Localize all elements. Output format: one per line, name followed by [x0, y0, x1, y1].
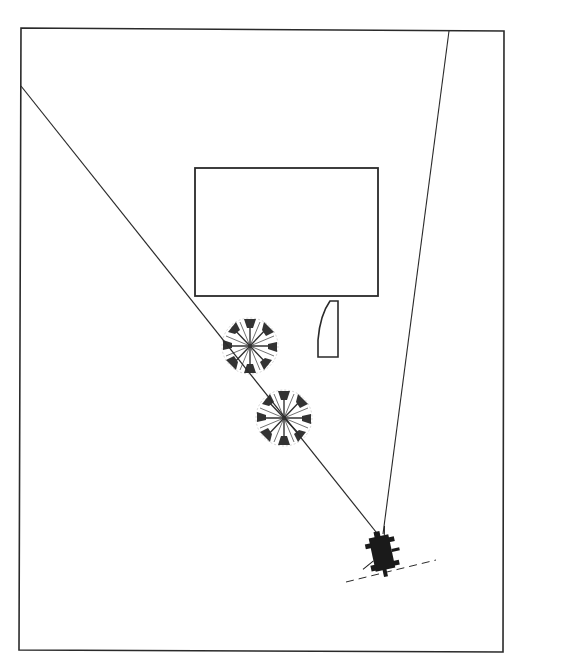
sight-line-left	[21, 86, 380, 537]
site-boundary	[19, 28, 504, 652]
sight-line-top	[383, 31, 449, 534]
tree-icon	[256, 390, 312, 446]
building-outline	[195, 168, 378, 296]
diagram-canvas	[0, 0, 576, 660]
small-structure	[318, 301, 338, 357]
tree-icon	[222, 318, 278, 374]
observer-figure-icon	[355, 524, 405, 581]
